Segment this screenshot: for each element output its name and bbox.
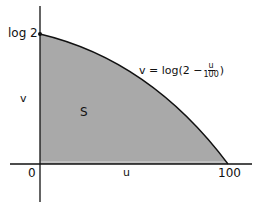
equation-right: ): [220, 64, 224, 77]
region-s-fill: [40, 34, 228, 164]
y-axis-label: v: [20, 93, 27, 104]
x-axis-label: u: [123, 167, 130, 178]
x-tick-origin: 0: [28, 167, 36, 179]
curve-equation: v = log(2 − u 100 ): [139, 62, 224, 79]
equation-left: v = log(2 −: [139, 64, 203, 77]
x-tick-100: 100: [218, 167, 241, 179]
region-label: S: [80, 106, 88, 118]
equation-fraction: u 100: [204, 62, 219, 79]
equation-denominator: 100: [204, 71, 219, 79]
y-intercept-point: [38, 32, 42, 36]
y-tick-log2: log 2: [8, 27, 38, 39]
